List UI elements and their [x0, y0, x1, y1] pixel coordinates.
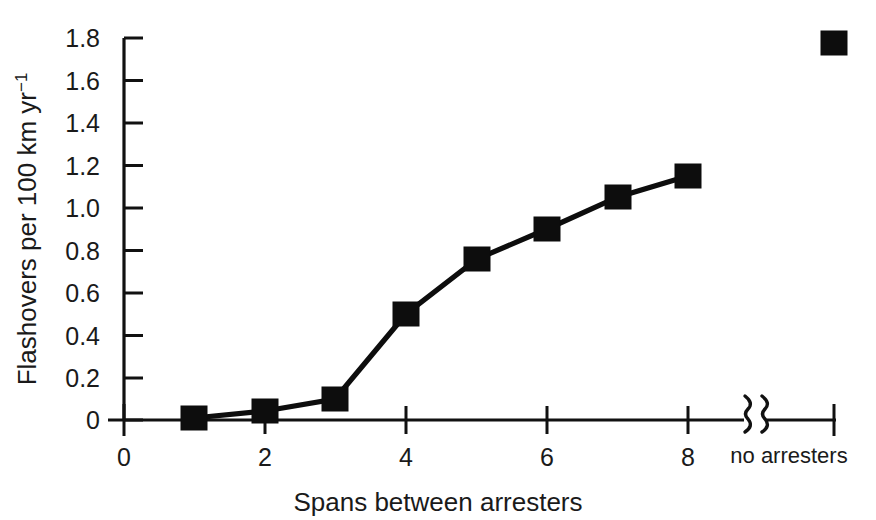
y-tick-label-1.0: 1.0: [65, 194, 100, 222]
x-tick-label-6: 6: [540, 443, 554, 471]
y-axis-title-text: Flashovers per 100 km yr: [12, 92, 42, 386]
y-tick-label-1.8: 1.8: [65, 24, 100, 52]
x-tick-label-8: 8: [681, 443, 695, 471]
y-tick-label-0: 0: [86, 406, 100, 434]
series-line: [194, 176, 688, 418]
x-axis-tick-labels: 0 2 4 6 8: [117, 443, 695, 471]
y-axis-tick-labels: 1.8 1.6 1.4 1.2 1.0 0.8 0.6 0.4 0.2 0: [65, 24, 100, 434]
data-point-marker[interactable]: [605, 185, 631, 209]
y-tick-label-0.8: 0.8: [65, 237, 100, 265]
series-markers: [181, 164, 701, 430]
data-point-marker[interactable]: [252, 399, 278, 423]
y-axis-title-superscript: −1: [12, 73, 31, 92]
y-tick-label-1.4: 1.4: [65, 109, 100, 137]
y-tick-label-0.2: 0.2: [65, 364, 100, 392]
y-tick-label-1.6: 1.6: [65, 67, 100, 95]
axis-break-label: no arresters: [730, 443, 847, 468]
x-tick-label-0: 0: [117, 443, 131, 471]
axis-break-icon: [745, 396, 767, 432]
data-point-marker[interactable]: [393, 302, 419, 326]
data-point-marker[interactable]: [464, 247, 490, 271]
data-point-marker[interactable]: [322, 387, 348, 411]
data-point-marker[interactable]: [675, 164, 701, 188]
data-point-marker[interactable]: [534, 217, 560, 241]
line-chart: 1.8 1.6 1.4 1.2 1.0 0.8 0.6 0.4 0.2 0 0 …: [0, 0, 876, 520]
y-axis-title: Flashovers per 100 km yr−1: [12, 73, 42, 386]
x-axis-title: Spans between arresters: [293, 487, 582, 517]
x-tick-label-4: 4: [399, 443, 413, 471]
data-point-marker[interactable]: [181, 406, 207, 430]
y-tick-label-0.6: 0.6: [65, 279, 100, 307]
x-tick-label-2: 2: [258, 443, 272, 471]
y-tick-label-1.2: 1.2: [65, 152, 100, 180]
figure-container: 1.8 1.6 1.4 1.2 1.0 0.8 0.6 0.4 0.2 0 0 …: [0, 0, 876, 520]
data-point-marker-no-arresters[interactable]: [821, 31, 847, 55]
y-tick-label-0.4: 0.4: [65, 322, 100, 350]
